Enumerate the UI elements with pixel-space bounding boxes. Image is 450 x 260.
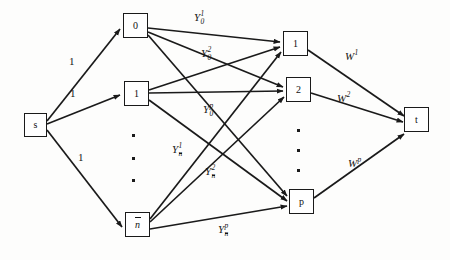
edge-label-W-p: Wp: [348, 158, 361, 169]
edge-label-W-2-sup: 2: [346, 90, 350, 99]
edge-1-to-r1: [149, 47, 280, 90]
ellipsis-dot-middle: [132, 134, 135, 137]
node-t[interactable]: t: [404, 107, 429, 132]
edge-label-W-1-sup: 1: [354, 48, 358, 57]
edge-s-to-0: [47, 29, 120, 121]
edge-label-W-2: W2: [337, 93, 350, 104]
node-right-1[interactable]: 1: [283, 31, 308, 56]
edge-r2-to-t: [311, 93, 403, 122]
edge-label-Y-nbar-1-sub: n: [179, 149, 183, 158]
edge-label-Y-0-1-sub: 0: [201, 17, 205, 26]
edge-s-to-1: [47, 95, 120, 124]
ellipsis-dot-middle: [132, 179, 135, 182]
edge-label-s-1-capacity: 1: [70, 88, 76, 99]
ellipsis-dot-right: [297, 149, 300, 152]
edge-label-Y-0-2-sub: 0: [208, 53, 212, 62]
node-right-2[interactable]: 2: [286, 77, 311, 102]
node-s-label: s: [34, 120, 38, 130]
network-flow-diagram: s 0 1 n 1 2 p t 1 1 1 Y10 Y20 Yp0 Y1n Y2…: [0, 0, 450, 260]
node-right-2-label: 2: [296, 85, 301, 95]
ellipsis-dot-middle: [132, 157, 135, 160]
edge-label-Y-0-p-sub: 0: [210, 109, 214, 118]
edge-label-Y-nbar-2-sub: n: [212, 171, 216, 180]
ellipsis-dot-right: [297, 169, 300, 172]
edge-n-to-r1: [150, 52, 281, 219]
node-right-p[interactable]: p: [289, 189, 314, 214]
edge-label-W-p-base: W: [348, 157, 357, 169]
edge-label-Y-nbar-2: Y2n: [205, 166, 215, 177]
edge-label-Y-0-p: Yp0: [203, 104, 213, 115]
node-middle-1-label: 1: [134, 89, 139, 99]
edge-label-Y-nbar-p: Ypn: [218, 224, 228, 235]
node-right-p-label: p: [299, 197, 304, 207]
ellipsis-dot-right: [297, 129, 300, 132]
edge-label-Y-nbar-1: Y1n: [172, 144, 182, 155]
node-t-label: t: [415, 115, 418, 125]
edge-label-Y-nbar-p-sub: n: [225, 229, 229, 238]
edge-1-to-r2: [149, 91, 283, 93]
edge-label-s-0-capacity: 1: [69, 56, 75, 67]
edge-label-Y-0-1: Y10: [194, 12, 204, 23]
edge-label-W-2-base: W: [337, 92, 346, 104]
node-s[interactable]: s: [24, 113, 47, 137]
edge-label-W-p-sup: p: [357, 155, 361, 164]
edge-label-Y-0-2: Y20: [201, 48, 211, 59]
node-middle-n-bar[interactable]: n: [125, 212, 150, 237]
edge-s-to-n: [47, 130, 122, 227]
node-right-1-label: 1: [293, 39, 298, 49]
edge-label-s-n-capacity: 1: [78, 152, 84, 163]
edge-label-W-1-base: W: [345, 50, 354, 62]
node-middle-0-label: 0: [133, 21, 138, 31]
node-middle-0[interactable]: 0: [123, 13, 148, 38]
node-middle-n-bar-label: n: [135, 220, 140, 230]
node-middle-1[interactable]: 1: [124, 81, 149, 106]
edge-label-W-1: W1: [345, 51, 358, 62]
